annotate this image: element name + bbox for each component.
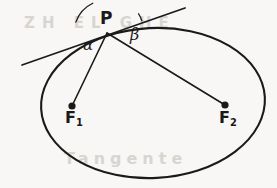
angle-arc-alpha xyxy=(76,3,93,22)
focus-label-f1-base: F xyxy=(65,108,76,127)
focal-radius-p-to-f2 xyxy=(107,33,225,105)
focus-label-f2-subscript: 2 xyxy=(230,117,237,128)
angle-arc-beta xyxy=(139,14,142,21)
angle-label-alpha: α xyxy=(83,38,93,53)
focus-label-f2-base: F xyxy=(219,108,230,127)
focus-label-f2: F2 xyxy=(219,110,237,126)
focus-label-f1: F1 xyxy=(65,110,83,126)
angle-label-beta: β xyxy=(130,27,139,43)
focus-label-f1-subscript: 1 xyxy=(76,117,83,128)
point-label-p: P xyxy=(100,10,112,27)
ellipse-diagram-figure: ZH EL GHE Tangente P F1 F2 α β xyxy=(0,0,277,188)
